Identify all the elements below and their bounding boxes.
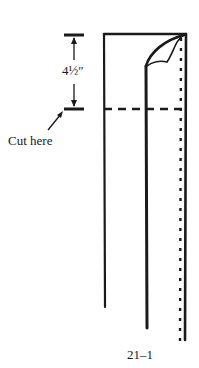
dotted-fold-line: [180, 38, 181, 344]
cut-arrow: [48, 111, 63, 130]
measurement-label: 4½″: [62, 62, 84, 80]
cut-here-label: Cut here: [8, 133, 52, 149]
fold-line: [146, 35, 184, 328]
figure-number: 21–1: [127, 347, 153, 363]
folding-diagram: [0, 0, 199, 368]
